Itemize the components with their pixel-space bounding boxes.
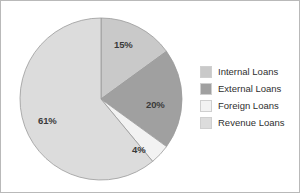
chart-legend: Internal Loans External Loans Foreign Lo… [200, 63, 298, 131]
legend-swatch-icon-internal-loans [200, 66, 212, 78]
legend-swatch-icon-revenue-loans [200, 117, 212, 129]
legend-label-foreign-loans: Foreign Loans [218, 100, 279, 112]
chart-plot-area: 15% 20% 4% 61% [1, 1, 197, 192]
pie-chart-figure: 15% 20% 4% 61% Internal Loans External L… [0, 0, 300, 193]
legend-item-external-loans: External Loans [200, 80, 298, 97]
legend-swatch-icon-external-loans [200, 83, 212, 95]
legend-item-internal-loans: Internal Loans [200, 63, 298, 80]
pie-chart-svg [1, 1, 197, 192]
legend-label-external-loans: External Loans [218, 83, 281, 95]
pie-slice-label-foreign-loans: 4% [132, 144, 146, 155]
legend-label-internal-loans: Internal Loans [218, 66, 278, 78]
legend-label-revenue-loans: Revenue Loans [218, 117, 285, 129]
legend-item-revenue-loans: Revenue Loans [200, 114, 298, 131]
pie-slice-label-internal-loans: 15% [114, 39, 133, 50]
legend-swatch-icon-foreign-loans [200, 100, 212, 112]
pie-slice-label-revenue-loans: 61% [38, 115, 57, 126]
pie-slice-label-external-loans: 20% [146, 99, 165, 110]
legend-item-foreign-loans: Foreign Loans [200, 97, 298, 114]
